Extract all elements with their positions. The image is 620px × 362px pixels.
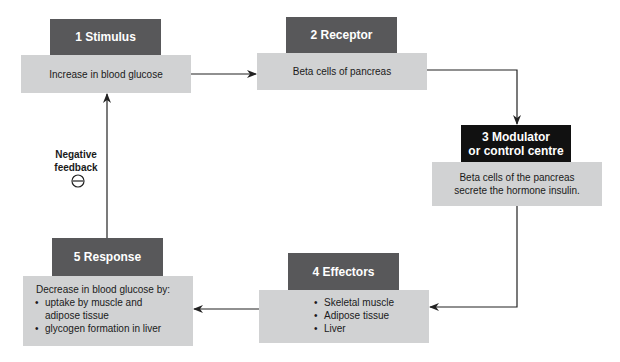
negative-feedback-label: Negative feedback <box>48 148 104 174</box>
response-list: uptake by muscle and adipose tissue glyc… <box>33 296 193 335</box>
step-1-text: Increase in blood glucose <box>49 68 162 81</box>
list-item: Liver <box>312 322 429 335</box>
list-item: uptake by muscle and adipose tissue <box>33 296 193 322</box>
step-3-modulator-box: Beta cells of the pancreas secrete the h… <box>432 162 602 206</box>
list-item: Adipose tissue <box>312 309 429 322</box>
step-3-text-line1: Beta cells of the pancreas <box>459 171 574 184</box>
step-1-header: 1 Stimulus <box>50 19 161 55</box>
step-4-effectors-box: Skeletal muscle Adipose tissue Liver <box>259 290 429 343</box>
minus-circle-icon <box>72 175 84 187</box>
effectors-list: Skeletal muscle Adipose tissue Liver <box>312 296 429 335</box>
step-4-header: 4 Effectors <box>288 253 399 290</box>
feedback-line1: Negative <box>48 148 104 161</box>
step-2-text: Beta cells of pancreas <box>293 65 391 78</box>
step-5-response-box: Decrease in blood glucose by: uptake by … <box>23 276 193 346</box>
list-item-line1: uptake by muscle and <box>45 297 142 308</box>
step-3-header-line2: or control centre <box>468 144 563 158</box>
step-1-stimulus-box: Increase in blood glucose <box>21 55 191 93</box>
list-item-line2: adipose tissue <box>45 310 109 321</box>
list-item: glycogen formation in liver <box>33 322 193 335</box>
step-5-header: 5 Response <box>52 238 163 276</box>
list-item: Skeletal muscle <box>312 296 429 309</box>
step-3-header: 3 Modulator or control centre <box>461 125 571 163</box>
feedback-line2: feedback <box>48 161 104 174</box>
step-2-header: 2 Receptor <box>286 17 397 53</box>
step-2-receptor-box: Beta cells of pancreas <box>257 53 427 90</box>
step-3-header-line1: 3 Modulator <box>482 130 550 144</box>
step-5-intro: Decrease in blood glucose by: <box>36 283 193 296</box>
step-3-text-line2: secrete the hormone insulin. <box>454 184 580 197</box>
